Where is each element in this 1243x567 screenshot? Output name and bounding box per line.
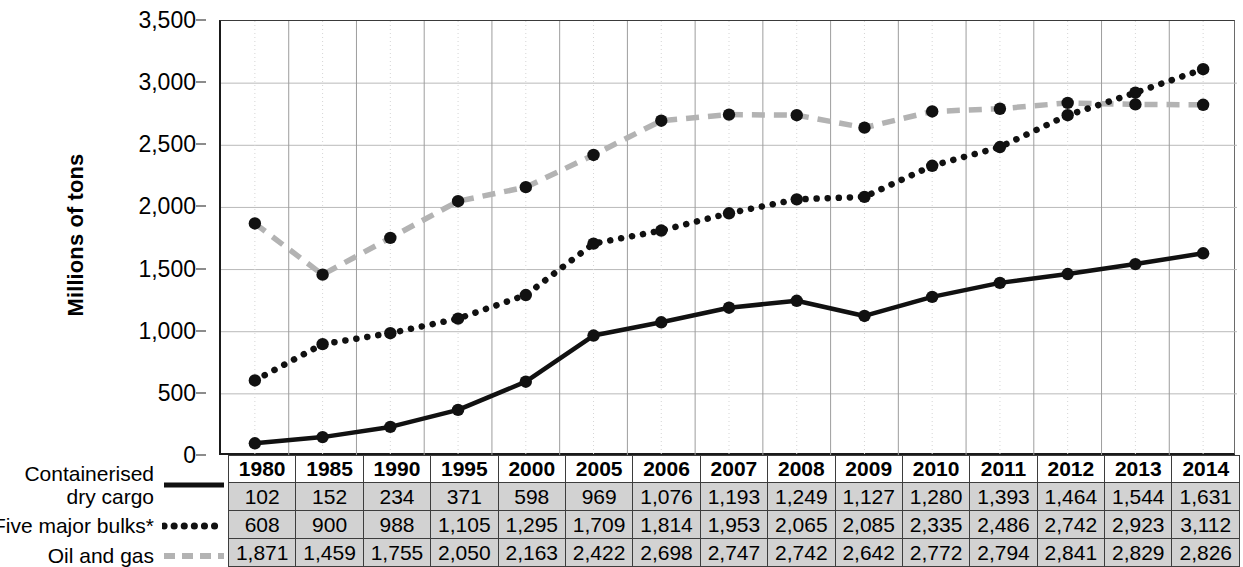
data-point-marker <box>994 103 1006 115</box>
data-point-marker <box>316 268 328 280</box>
table-cell: 1,814 <box>633 511 700 539</box>
table-cell: 371 <box>431 483 498 511</box>
data-point-marker <box>249 374 261 386</box>
table-body: 1021522343715989691,0761,1931,2491,1271,… <box>229 483 1240 567</box>
y-axis-ticks: 05001,0001,5002,0002,5003,0003,500 <box>0 0 212 470</box>
table-row: 1,8711,4591,7552,0502,1632,4222,6982,747… <box>229 539 1240 567</box>
y-tick-mark <box>196 20 206 21</box>
data-point-marker <box>926 160 938 172</box>
data-point-marker <box>452 312 464 324</box>
table-header-cell: 1995 <box>431 456 498 483</box>
data-point-marker <box>587 329 599 341</box>
legend-item-label-line2: Five major bulks* <box>0 514 154 537</box>
series-line <box>255 103 1203 275</box>
table-header-cell: 2010 <box>902 456 969 483</box>
data-point-marker <box>926 105 938 117</box>
data-table-container: 1980198519901995200020052006200720082009… <box>228 455 1240 567</box>
table-cell: 2,050 <box>431 539 498 567</box>
table-cell: 1,631 <box>1172 483 1240 511</box>
table-header-cell: 2000 <box>498 456 565 483</box>
table-header-cell: 2006 <box>633 456 700 483</box>
table-header-cell: 1980 <box>229 456 296 483</box>
table-cell: 2,747 <box>700 539 767 567</box>
table-cell: 2,642 <box>835 539 902 567</box>
legend-item-label: Containeriseddry cargo <box>24 462 154 508</box>
legend-item-label: Oil and gas <box>48 544 154 567</box>
plot-svg <box>219 20 1239 458</box>
y-tick-label: 2,000 <box>138 195 196 218</box>
data-point-marker <box>452 404 464 416</box>
table-cell: 2,829 <box>1105 539 1172 567</box>
y-tick-mark <box>196 82 206 83</box>
data-point-marker <box>1129 98 1141 110</box>
data-point-marker <box>1129 87 1141 99</box>
table-cell: 969 <box>565 483 632 511</box>
legend-item-label-line2: dry cargo <box>24 485 154 508</box>
table-cell: 1,755 <box>363 539 430 567</box>
data-point-marker <box>587 237 599 249</box>
data-point-marker <box>994 277 1006 289</box>
data-point-marker <box>994 141 1006 153</box>
table-cell: 2,923 <box>1105 511 1172 539</box>
data-point-marker <box>791 193 803 205</box>
y-tick-mark <box>196 392 206 393</box>
dashed-line-sample <box>162 549 226 563</box>
table-cell: 1,871 <box>229 539 296 567</box>
data-point-marker <box>791 295 803 307</box>
plot-area <box>219 20 1235 455</box>
table-cell: 2,772 <box>902 539 969 567</box>
table-cell: 1,953 <box>700 511 767 539</box>
table-cell: 2,065 <box>768 511 835 539</box>
data-point-marker <box>1129 258 1141 270</box>
data-point-marker <box>384 327 396 339</box>
data-point-marker <box>384 421 396 433</box>
legend-item-label-line2: Oil and gas <box>48 544 154 567</box>
table-cell: 1,280 <box>902 483 969 511</box>
table-cell: 1,105 <box>431 511 498 539</box>
y-tick-mark <box>196 268 206 269</box>
y-tick-label: 3,500 <box>138 9 196 32</box>
table-header-cell: 2005 <box>565 456 632 483</box>
data-point-marker <box>520 289 532 301</box>
table-header-cell: 1990 <box>363 456 430 483</box>
data-point-marker <box>316 431 328 443</box>
table-cell: 1,459 <box>296 539 363 567</box>
dotted-line-sample <box>162 519 226 533</box>
legend-item-label-line1: Containerised <box>24 462 154 485</box>
data-point-marker <box>858 121 870 133</box>
y-tick-label: 2,500 <box>138 133 196 156</box>
table-header-cell: 2009 <box>835 456 902 483</box>
y-tick-label: 1,000 <box>138 319 196 342</box>
data-point-marker <box>1197 99 1209 111</box>
data-point-marker <box>791 109 803 121</box>
data-point-marker <box>655 316 667 328</box>
data-point-marker <box>655 224 667 236</box>
table-cell: 1,295 <box>498 511 565 539</box>
data-point-marker <box>858 310 870 322</box>
legend-item: Containeriseddry cargo <box>24 462 226 508</box>
data-point-marker <box>1061 97 1073 109</box>
y-tick-mark <box>196 330 206 331</box>
table-cell: 1,393 <box>970 483 1037 511</box>
table-cell: 2,742 <box>768 539 835 567</box>
table-cell: 2,486 <box>970 511 1037 539</box>
table-cell: 3,112 <box>1172 511 1240 539</box>
table-cell: 1,127 <box>835 483 902 511</box>
data-point-marker <box>1061 268 1073 280</box>
table-header-row: 1980198519901995200020052006200720082009… <box>229 456 1240 483</box>
table-cell: 2,163 <box>498 539 565 567</box>
table-cell: 102 <box>229 483 296 511</box>
table-row: 6089009881,1051,2951,7091,8141,9532,0652… <box>229 511 1240 539</box>
table-cell: 900 <box>296 511 363 539</box>
table-cell: 1,464 <box>1037 483 1104 511</box>
data-point-marker <box>316 338 328 350</box>
table-header-cell: 1985 <box>296 456 363 483</box>
data-table: 1980198519901995200020052006200720082009… <box>228 455 1240 567</box>
solid-line-sample <box>162 478 226 492</box>
data-point-marker <box>723 302 735 314</box>
table-cell: 2,841 <box>1037 539 1104 567</box>
data-point-marker <box>452 195 464 207</box>
y-tick-label: 3,000 <box>138 71 196 94</box>
table-cell: 1,709 <box>565 511 632 539</box>
